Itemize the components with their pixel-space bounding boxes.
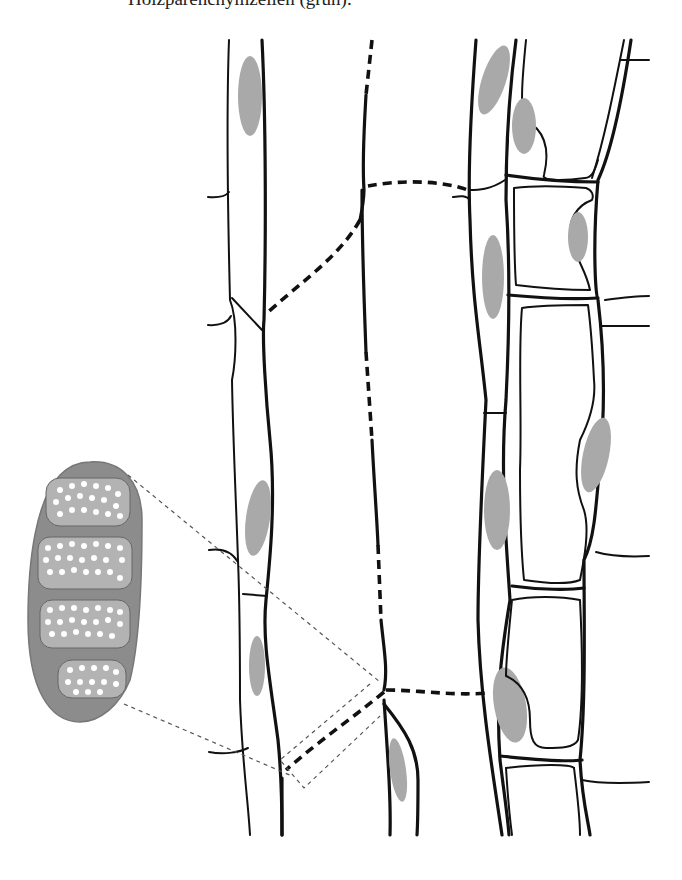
nucleus (512, 98, 536, 154)
nucleus (488, 665, 533, 745)
nucleus (568, 212, 588, 262)
left-cell-column (208, 40, 282, 835)
vessel-column (268, 40, 488, 835)
tissue-diagram (0, 0, 682, 880)
nucleus (482, 235, 504, 319)
magnified-inset (28, 462, 142, 722)
nucleus (484, 470, 510, 550)
nucleus (249, 636, 265, 696)
nucleus (575, 415, 616, 495)
nucleus (238, 56, 262, 136)
